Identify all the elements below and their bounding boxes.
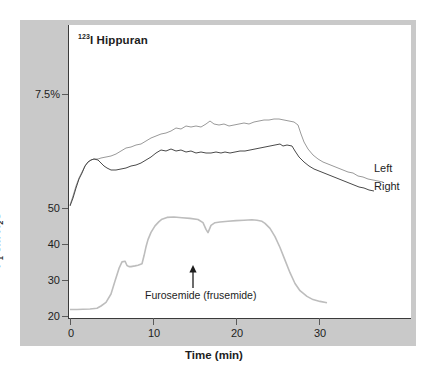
y-axis-title-sub1: 1	[0, 256, 5, 260]
ytick-label-40: 40	[20, 239, 60, 250]
xtick-label-30: 30	[307, 328, 333, 339]
xtick-label-20: 20	[224, 328, 250, 339]
plot-canvas	[68, 25, 411, 318]
title-main: I Hippuran	[90, 34, 148, 46]
ytick-label-7-5-percent: 7.5%	[20, 89, 60, 100]
title-superscript: 123	[78, 33, 90, 40]
y-axis-title-sub2: 2	[0, 221, 5, 225]
y-axis-title-end: O	[0, 212, 2, 221]
xtick-label-0: 0	[58, 328, 84, 339]
y-axis-title-mid: cm H	[0, 225, 2, 256]
page-title: 123I Hippuran	[78, 33, 148, 47]
series-label-right: Right	[374, 181, 400, 192]
figure-root: 123I Hippuran 7.5% 50 40 30 20 0 10 20 3…	[0, 0, 431, 376]
ytick-label-20: 20	[20, 311, 60, 322]
y-axis-title: P1 cm H2O	[0, 212, 5, 268]
ytick-label-50: 50	[20, 203, 60, 214]
series-label-left: Left	[374, 163, 392, 174]
xtick-label-10: 10	[141, 328, 167, 339]
furosemide-annotation-label: Furosemide (frusemide)	[145, 290, 256, 301]
y-axis-title-p: P	[0, 260, 2, 268]
ytick-label-30: 30	[20, 275, 60, 286]
x-axis-title: Time (min)	[185, 350, 243, 362]
